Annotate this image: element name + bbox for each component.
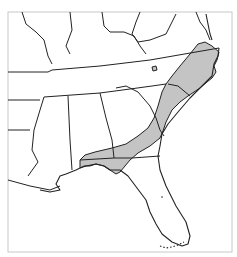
distribution-range: [80, 42, 219, 174]
chesapeake-bay: [206, 14, 212, 40]
gulf-coast-la: [8, 180, 60, 190]
southeast-us-range-map: [0, 0, 237, 257]
boundary-il-in: [22, 12, 52, 64]
boundary-in-oh: [66, 12, 72, 54]
mississippi-river: [28, 97, 44, 176]
range-polygon: [80, 42, 219, 174]
boundary-tn-south: [44, 84, 166, 97]
boundary-oh-wv: [102, 12, 146, 54]
lake-marker: [161, 196, 163, 198]
boundary-wv-va: [132, 12, 176, 42]
isolated-population: [152, 66, 157, 71]
boundary-ms-al: [68, 96, 72, 170]
coastline: [40, 14, 219, 248]
